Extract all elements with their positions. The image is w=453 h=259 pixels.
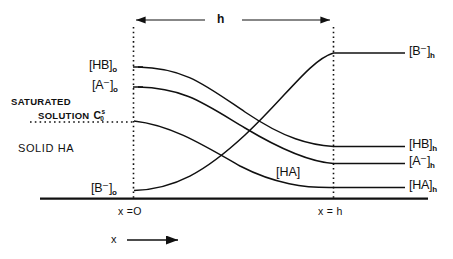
- c-subscript-zero: 0: [100, 115, 104, 122]
- label-hb-h: [HB]h: [409, 138, 437, 151]
- middle-species-label: [HA]: [276, 166, 300, 179]
- label-a-minus-0: [A⁻]o: [92, 79, 118, 92]
- label-hb-0-sub: o: [112, 65, 117, 74]
- label-hb-0: [HB]o: [89, 59, 117, 72]
- thickness-label: h: [217, 13, 224, 25]
- curve-hb: [133, 67, 405, 147]
- label-b-minus-0-sub: o: [112, 188, 117, 197]
- diffusion-profile-figure: h [HB]o [A⁻]o [B⁻]o SATURATED SOLUTIONCs…: [0, 0, 453, 259]
- label-hb-h-sub: h: [432, 144, 437, 153]
- x-origin-tick-label: x =O: [118, 206, 142, 217]
- label-a-minus-h: [A⁻]h: [409, 155, 435, 168]
- figure-canvas: [0, 0, 453, 259]
- label-hb-0-text: [HB]: [89, 58, 112, 72]
- label-b-minus-h-sub: h: [430, 51, 435, 60]
- label-b-minus-h: [B⁻]h: [409, 45, 435, 58]
- curve-ha: [134, 121, 405, 188]
- label-b-minus-h-text: [B⁻]: [409, 44, 430, 58]
- x-h-tick-label: x = h: [318, 206, 343, 217]
- label-hb-h-text: [HB]: [409, 137, 432, 151]
- label-a-minus-h-text: [A⁻]: [409, 154, 430, 168]
- label-ha-h-text: [HA]: [409, 178, 432, 192]
- label-a-minus-0-text: [A⁻]: [92, 78, 113, 92]
- solid-phase-label: SOLID HA: [18, 143, 74, 154]
- label-a-minus-h-sub: h: [430, 161, 435, 170]
- c-superscript-s: s: [101, 108, 105, 115]
- curve-a-minus: [133, 87, 405, 164]
- label-ha-h-sub: h: [432, 185, 437, 194]
- solution-word: SOLUTION: [38, 110, 89, 121]
- x-axis-name-label: x: [111, 234, 117, 245]
- label-b-minus-0: [B⁻]o: [91, 182, 117, 195]
- saturated-caption-line1: SATURATED: [11, 97, 71, 107]
- label-ha-h: [HA]h: [409, 179, 437, 192]
- label-a-minus-0-sub: o: [113, 85, 118, 94]
- label-b-minus-0-text: [B⁻]: [91, 181, 112, 195]
- curve-b-minus: [134, 53, 405, 191]
- saturated-caption-line2: SOLUTIONCs0: [38, 110, 109, 121]
